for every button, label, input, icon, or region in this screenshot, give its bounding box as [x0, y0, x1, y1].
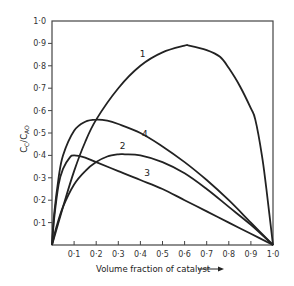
x-tick-label: 0·2 — [90, 250, 103, 259]
y-axis-label: CC/CAO — [19, 125, 30, 153]
y-tick-label: 0·4 — [33, 151, 46, 160]
x-tick-label: 1·0 — [267, 250, 280, 259]
curve-label-1: 1 — [140, 49, 146, 59]
y-axis-ticks: 0·10·20·30·40·50·60·70·80·91·0 — [33, 17, 52, 228]
curve-3 — [52, 155, 273, 245]
x-tick-label: 0·7 — [200, 250, 213, 259]
curve-label-4: 4 — [142, 129, 148, 139]
y-tick-label: 0·7 — [33, 84, 46, 93]
curve-2 — [52, 154, 273, 245]
y-tick-label: 0·6 — [33, 107, 46, 116]
y-tick-label: 1·0 — [33, 17, 46, 26]
x-tick-label: 0·8 — [222, 250, 235, 259]
x-tick-label: 0·6 — [178, 250, 191, 259]
x-axis-label: Volume fraction of catalyst — [96, 264, 211, 274]
y-tick-label: 0·1 — [33, 219, 46, 228]
x-tick-label: 0·1 — [68, 250, 81, 259]
x-tick-label: 0·4 — [134, 250, 147, 259]
x-axis-ticks: 0·10·20·30·40·50·60·70·80·91·0 — [68, 241, 280, 259]
x-tick-label: 0·9 — [245, 250, 258, 259]
y-tick-label: 0·8 — [33, 62, 46, 71]
y-tick-label: 0·9 — [33, 39, 46, 48]
y-tick-label: 0·3 — [33, 174, 46, 183]
chart: 0·10·20·30·40·50·60·70·80·91·0 0·10·20·3… — [0, 0, 294, 286]
curve-label-2: 2 — [120, 141, 126, 151]
curve-4 — [52, 120, 273, 245]
x-axis-label-group: Volume fraction of catalyst — [96, 264, 224, 274]
curve-label-3: 3 — [144, 168, 150, 178]
y-tick-label: 0·2 — [33, 196, 46, 205]
x-tick-label: 0·3 — [112, 250, 125, 259]
y-tick-label: 0·5 — [33, 129, 46, 138]
curve-labels: 1234 — [120, 49, 150, 178]
curves — [52, 45, 273, 245]
x-tick-label: 0·5 — [156, 250, 169, 259]
